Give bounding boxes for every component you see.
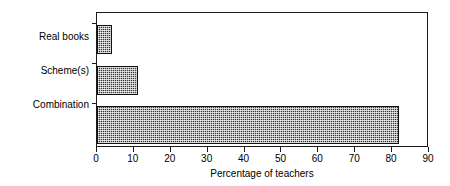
x-axis-tick (428, 147, 429, 152)
plot-area (96, 12, 428, 147)
x-axis-tick-label: 0 (81, 153, 111, 165)
x-axis-tick-label: 70 (339, 153, 369, 165)
x-axis-tick (354, 147, 355, 152)
category-label-real-books: Real books (39, 31, 89, 43)
x-axis-title: Percentage of teachers (96, 168, 428, 180)
x-axis-tick (280, 147, 281, 152)
x-axis-tick (244, 147, 245, 152)
x-axis-tick-label: 90 (413, 153, 443, 165)
bar-real-books (97, 25, 112, 54)
category-label-schemes: Scheme(s) (41, 65, 89, 77)
x-axis-tick-label: 40 (229, 153, 259, 165)
x-axis-tick (317, 147, 318, 152)
x-axis-tick-label: 20 (155, 153, 185, 165)
x-axis-tick (207, 147, 208, 152)
x-axis-tick-label: 10 (118, 153, 148, 165)
category-label-combination: Combination (33, 99, 89, 111)
x-axis-tick-label: 60 (302, 153, 332, 165)
x-axis-tick (96, 147, 97, 152)
x-axis-tick-label: 30 (192, 153, 222, 165)
x-axis-tick (170, 147, 171, 152)
x-axis-tick-label: 80 (376, 153, 406, 165)
x-axis-tick-label: 50 (265, 153, 295, 165)
bar-combination (97, 106, 399, 144)
x-axis-tick (133, 147, 134, 152)
x-axis-tick (391, 147, 392, 152)
bar-schemes (97, 66, 138, 95)
bar-chart: Real books Scheme(s) Combination 0102030… (0, 0, 450, 186)
